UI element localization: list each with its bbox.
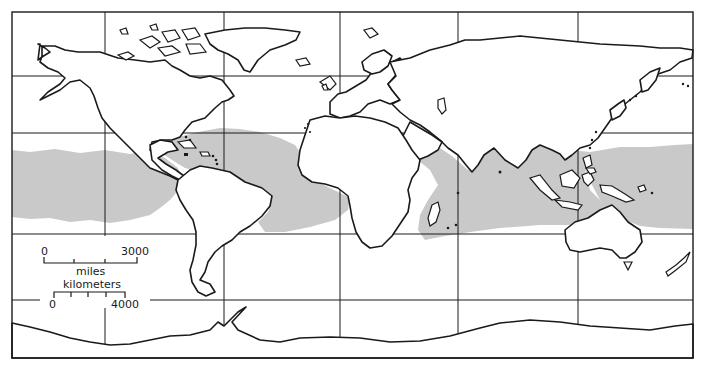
miles-unit-label: miles [76, 265, 106, 278]
kilometers-start-label: 0 [49, 298, 56, 311]
antarctica [12, 307, 693, 358]
world-map: 0 3000 miles kilometers 0 4000 [0, 0, 706, 370]
africa [298, 116, 420, 248]
miles-end-label: 3000 [121, 245, 149, 258]
miles-start-label: 0 [41, 245, 48, 258]
kilometers-end-label: 4000 [111, 298, 139, 311]
kilometers-unit-label: kilometers [63, 278, 121, 291]
greenland [205, 28, 300, 72]
